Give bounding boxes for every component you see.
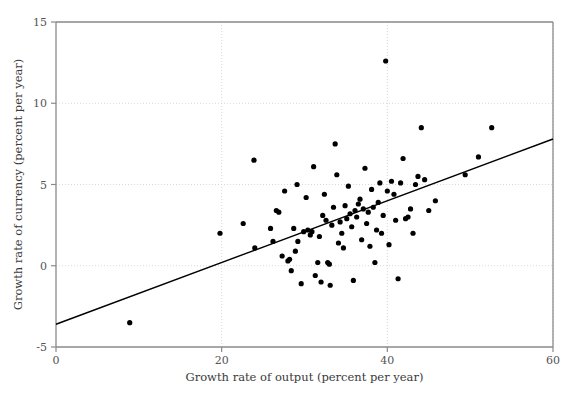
chart-canvas: -50510150204060Growth rate of output (pe… [0, 0, 577, 393]
data-point [317, 234, 322, 239]
data-point [318, 279, 323, 284]
data-point [422, 177, 427, 182]
data-point [342, 203, 347, 208]
data-point [241, 221, 246, 226]
data-point [364, 221, 369, 226]
data-point [393, 218, 398, 223]
data-point [405, 214, 410, 219]
data-point [379, 231, 384, 236]
data-point [349, 224, 354, 229]
data-point [419, 125, 424, 130]
data-point [400, 156, 405, 161]
data-point [341, 245, 346, 250]
data-point [433, 198, 438, 203]
scatter-chart: -50510150204060Growth rate of output (pe… [0, 0, 577, 393]
tick-labels: -50510150204060 [33, 16, 560, 367]
data-point [282, 188, 287, 193]
x-tick-label: 0 [53, 354, 60, 367]
data-point [293, 249, 298, 254]
data-point [398, 180, 403, 185]
y-tick-label: 15 [33, 16, 47, 29]
data-point [356, 201, 361, 206]
data-point [376, 200, 381, 205]
data-point [367, 244, 372, 249]
data-point [389, 179, 394, 184]
data-point [347, 211, 352, 216]
data-point [352, 208, 357, 213]
y-axis-title: Growth rate of currency (percent per yea… [11, 59, 25, 311]
data-point [268, 226, 273, 231]
data-point [329, 223, 334, 228]
x-tick-label: 20 [215, 354, 229, 367]
data-point [476, 154, 481, 159]
data-point [315, 260, 320, 265]
data-point [280, 253, 285, 258]
data-point [309, 229, 314, 234]
data-point [489, 125, 494, 130]
data-point [287, 257, 292, 262]
data-point [377, 180, 382, 185]
y-tick-label: 0 [40, 260, 47, 273]
data-point [270, 239, 275, 244]
data-point [410, 231, 415, 236]
data-point [357, 197, 362, 202]
data-point [371, 205, 376, 210]
data-point [299, 281, 304, 286]
data-point [334, 172, 339, 177]
data-point [323, 218, 328, 223]
data-point [338, 219, 343, 224]
axes [56, 22, 553, 347]
data-point [313, 273, 318, 278]
data-point [322, 192, 327, 197]
x-axis-title: Growth rate of output (percent per year) [186, 370, 424, 384]
data-point [336, 240, 341, 245]
data-point [361, 206, 366, 211]
data-point [391, 192, 396, 197]
y-tick-label: -5 [36, 341, 47, 354]
data-point [385, 188, 390, 193]
data-point [383, 58, 388, 63]
data-point [426, 208, 431, 213]
data-point [346, 184, 351, 189]
data-point [304, 195, 309, 200]
data-point [366, 210, 371, 215]
data-point [415, 174, 420, 179]
data-point [408, 206, 413, 211]
data-point [359, 237, 364, 242]
data-point [374, 227, 379, 232]
data-point [320, 213, 325, 218]
x-tick-label: 60 [546, 354, 560, 367]
data-point [351, 278, 356, 283]
data-point [217, 231, 222, 236]
data-point [327, 262, 332, 267]
data-point [362, 166, 367, 171]
x-tick-label: 40 [380, 354, 394, 367]
data-point [252, 245, 257, 250]
data-point [333, 141, 338, 146]
data-point [369, 187, 374, 192]
data-point [386, 242, 391, 247]
scatter-series [127, 58, 494, 325]
data-point [289, 268, 294, 273]
data-point [463, 172, 468, 177]
data-point [127, 320, 132, 325]
data-point [328, 283, 333, 288]
data-point [311, 164, 316, 169]
data-point [339, 231, 344, 236]
data-point [331, 205, 336, 210]
data-point [381, 213, 386, 218]
data-point [294, 182, 299, 187]
y-tick-label: 10 [33, 97, 47, 110]
gridlines [56, 22, 553, 347]
data-point [413, 182, 418, 187]
data-point [251, 158, 256, 163]
data-point [396, 276, 401, 281]
data-point [291, 226, 296, 231]
data-point [372, 260, 377, 265]
y-tick-label: 5 [40, 179, 47, 192]
data-point [295, 239, 300, 244]
data-point [276, 210, 281, 215]
data-point [344, 216, 349, 221]
data-point [354, 214, 359, 219]
